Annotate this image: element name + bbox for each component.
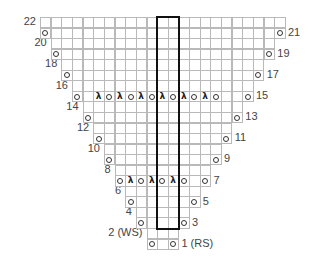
decrease-icon: λ [125,176,136,185]
row-label: 17 [267,69,279,80]
chart-cell [178,207,189,218]
knitting-chart: 1 (RS)2 (WS)3456λλλ7891011121314λλλλλλ15… [0,0,310,263]
chart-cell [232,101,243,112]
row-label: 11 [235,132,246,143]
row-label: 20 [34,37,46,48]
row-label: 3 [192,217,198,228]
decrease-icon: λ [200,92,211,101]
row-label: 22 [24,16,36,27]
row-label: 12 [77,122,89,133]
row-label: 5 [203,196,209,207]
row-label: 16 [56,80,68,91]
yarn-over-icon [128,199,134,205]
chart-cell [210,144,221,155]
row-label: 10 [88,143,100,154]
decrease-icon: λ [178,92,189,101]
row-label: 2 (WS) [108,227,142,238]
yarn-over-icon [181,178,187,184]
yarn-over-icon [181,220,187,226]
decrease-icon: λ [93,92,104,101]
repeat-box [156,16,180,230]
yarn-over-icon [106,94,112,100]
row-label: 21 [288,27,300,38]
chart-cell [242,80,253,91]
row-label: 14 [66,101,78,112]
row-label: 13 [245,111,257,122]
yarn-over-icon [74,94,80,100]
yarn-over-icon [117,178,123,184]
yarn-over-icon [85,115,91,121]
yarn-over-icon [149,94,155,100]
yarn-over-icon [202,178,208,184]
yarn-over-icon [213,157,219,163]
yarn-over-icon [191,94,197,100]
decrease-icon: λ [136,92,147,101]
chart-cell [221,123,232,134]
row-label: 6 [115,185,121,196]
yarn-over-icon [106,157,112,163]
chart-cell [264,38,275,49]
yarn-over-icon [96,136,102,142]
yarn-over-icon [213,94,219,100]
chart-cell [189,186,200,197]
chart-cell [253,59,264,70]
row-label: 15 [256,90,268,101]
chart-cell [168,228,179,239]
row-label: 7 [213,175,219,186]
chart-cell [274,17,285,28]
row-label: 9 [224,153,230,164]
row-label: 19 [277,48,289,59]
yarn-over-icon [128,94,134,100]
yarn-over-icon [149,241,155,247]
row-label: 18 [45,58,57,69]
yarn-over-icon [234,115,240,121]
decrease-icon: λ [115,92,126,101]
chart-cell [200,165,211,176]
yarn-over-icon [245,94,251,100]
row-label: 1 (RS) [181,238,213,249]
row-label: 8 [104,164,110,175]
yarn-over-icon [277,30,283,36]
row-label: 4 [126,206,132,217]
